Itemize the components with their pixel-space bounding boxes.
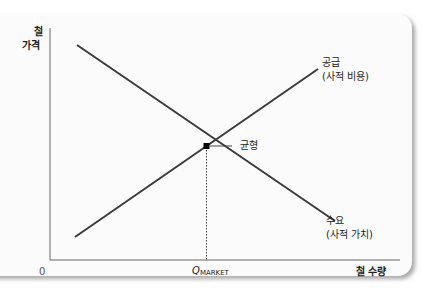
supply-sublabel: (사적 비용) [322,70,369,83]
y-axis-label-line1: 철 [34,25,43,38]
supply-demand-chart [0,0,423,300]
supply-label: 공급 [322,56,340,69]
y-axis-label-line2: 가격 [22,39,40,52]
q-market-subscript: MARKET [200,269,229,277]
q-market-label: QMARKET [192,265,229,276]
x-axis-label: 철 수량 [356,265,386,278]
equilibrium-point [204,143,210,149]
equilibrium-label: 균형 [240,139,258,152]
supply-curve [75,69,318,237]
demand-curve [77,45,335,221]
demand-label: 수요 [326,214,344,227]
q-market-main: Q [192,265,200,276]
origin-label: 0 [39,265,45,278]
demand-sublabel: (사적 가치) [326,228,373,241]
